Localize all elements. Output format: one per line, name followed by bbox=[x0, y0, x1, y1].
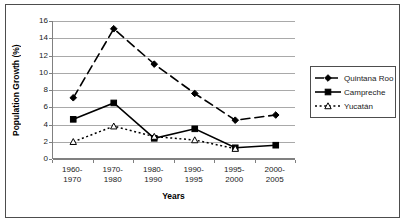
data-point-marker bbox=[70, 117, 76, 123]
x-axis-tick-mark bbox=[214, 160, 215, 163]
legend-key-diamond-icon bbox=[314, 72, 342, 84]
y-axis-tick-label: 2 bbox=[22, 138, 48, 146]
x-axis-tick-label: 1970-1980 bbox=[90, 165, 136, 185]
y-axis-tick-label: 12 bbox=[22, 52, 48, 60]
legend-label: Campreche bbox=[342, 88, 385, 97]
x-axis-tick-label-line: 1980 bbox=[90, 175, 136, 185]
series-line bbox=[73, 103, 275, 148]
y-axis-tick-label: 16 bbox=[22, 17, 48, 25]
chart-figure: Population Growth (%) 0246810121416 1960… bbox=[0, 0, 405, 224]
x-axis-tick-mark bbox=[295, 160, 296, 163]
x-axis-tick-label-line: 1995- bbox=[211, 165, 257, 175]
plot-area bbox=[52, 21, 295, 159]
x-axis-tick-label-line: 1970- bbox=[90, 165, 136, 175]
y-axis-tick-label: 10 bbox=[22, 69, 48, 77]
y-axis-tick-mark bbox=[49, 21, 52, 22]
chart-legend: Quintana RooCamprecheYucatán bbox=[310, 66, 396, 118]
y-axis-tick-mark bbox=[49, 142, 52, 143]
x-axis-tick-mark bbox=[133, 160, 134, 163]
y-axis-tick-label: 8 bbox=[22, 86, 48, 94]
y-axis-title: Population Growth (%) bbox=[9, 28, 23, 152]
x-axis-tick-mark bbox=[174, 160, 175, 163]
x-axis-tick-mark bbox=[255, 160, 256, 163]
x-axis-tick-label-line: 1995 bbox=[171, 175, 217, 185]
y-axis-tick-mark bbox=[49, 73, 52, 74]
y-axis-tick-label: 4 bbox=[22, 121, 48, 129]
y-axis-tick-label: 14 bbox=[22, 34, 48, 42]
data-point-marker bbox=[70, 139, 76, 145]
x-axis-tick-label-line: 1960- bbox=[49, 165, 95, 175]
legend-key-triangle-icon bbox=[314, 100, 342, 112]
x-axis-tick-mark bbox=[52, 160, 53, 163]
x-axis-tick-label-line: 2000 bbox=[211, 175, 257, 185]
x-axis-tick-label: 1990-1995 bbox=[171, 165, 217, 185]
data-point-marker bbox=[273, 142, 279, 148]
series-layer bbox=[53, 21, 296, 159]
y-axis-tick-mark bbox=[49, 125, 52, 126]
x-axis-tick-label: 1995-2000 bbox=[211, 165, 257, 185]
x-axis-tick-label: 1960-1970 bbox=[49, 165, 95, 185]
data-point-marker bbox=[111, 100, 117, 106]
y-axis-tick-mark bbox=[49, 90, 52, 91]
legend-item: Campreche bbox=[314, 85, 392, 99]
y-axis-tick-label: 0 bbox=[22, 155, 48, 163]
y-axis-tick-mark bbox=[49, 107, 52, 108]
x-axis-title: Years bbox=[52, 191, 295, 201]
data-point-marker bbox=[192, 126, 198, 132]
legend-label: Yucatán bbox=[342, 102, 373, 111]
data-point-marker bbox=[192, 137, 198, 143]
y-axis-tick-label: 6 bbox=[22, 103, 48, 111]
data-point-marker bbox=[325, 89, 331, 95]
x-axis-tick-mark bbox=[93, 160, 94, 163]
legend-key-square-icon bbox=[314, 86, 342, 98]
y-axis-tick-mark bbox=[49, 56, 52, 57]
y-axis-tick-mark bbox=[49, 38, 52, 39]
data-point-marker bbox=[325, 75, 332, 82]
legend-item: Yucatán bbox=[314, 99, 392, 113]
x-axis-tick-label: 1980-1990 bbox=[130, 165, 176, 185]
data-point-marker bbox=[111, 123, 117, 129]
x-axis-tick-label-line: 2005 bbox=[252, 175, 298, 185]
x-axis-tick-label-line: 1980- bbox=[130, 165, 176, 175]
x-axis-tick-label: 2000-2005 bbox=[252, 165, 298, 185]
x-axis-tick-label-line: 2000- bbox=[252, 165, 298, 175]
x-axis-tick-label-line: 1970 bbox=[49, 175, 95, 185]
x-axis-tick-label-line: 1990- bbox=[171, 165, 217, 175]
data-point-marker bbox=[272, 112, 279, 119]
legend-label: Quintana Roo bbox=[342, 74, 393, 83]
x-axis-tick-label-line: 1990 bbox=[130, 175, 176, 185]
data-point-marker bbox=[110, 25, 117, 32]
legend-item: Quintana Roo bbox=[314, 71, 392, 85]
